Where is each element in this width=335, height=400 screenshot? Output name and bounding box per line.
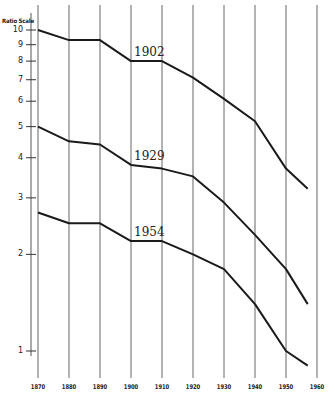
x-tick-label: 1870 bbox=[28, 383, 47, 391]
series-label-1954: 1954 bbox=[134, 225, 165, 239]
series-line-1954 bbox=[38, 213, 308, 366]
y-tick-label: 9 bbox=[3, 41, 23, 49]
series-line-1929 bbox=[38, 127, 308, 305]
y-tick-label: 5 bbox=[3, 123, 23, 131]
y-tick-label: 2 bbox=[3, 250, 23, 258]
x-tick-label: 1920 bbox=[183, 383, 202, 391]
y-tick-label: 7 bbox=[3, 76, 23, 84]
chart-canvas bbox=[0, 0, 335, 400]
x-tick-label: 1950 bbox=[276, 383, 295, 391]
y-tick-label: 8 bbox=[3, 57, 23, 65]
x-tick-label: 1880 bbox=[59, 383, 78, 391]
series-line-1902 bbox=[38, 30, 308, 189]
y-tick-label: 6 bbox=[3, 97, 23, 105]
x-tick-label: 1960 bbox=[307, 383, 326, 391]
series-label-1902: 1902 bbox=[134, 45, 165, 59]
y-axis-title: Ratio Scale bbox=[2, 17, 34, 24]
y-tick-label: 3 bbox=[3, 194, 23, 202]
x-tick-label: 1910 bbox=[152, 383, 171, 391]
x-tick-label: 1890 bbox=[90, 383, 109, 391]
x-tick-label: 1940 bbox=[245, 383, 264, 391]
x-tick-label: 1930 bbox=[214, 383, 233, 391]
y-tick-label: 1 bbox=[3, 347, 23, 355]
y-tick-label: 10 bbox=[3, 26, 23, 34]
series-label-1929: 1929 bbox=[134, 149, 165, 163]
y-tick-label: 4 bbox=[3, 154, 23, 162]
x-tick-label: 1900 bbox=[121, 383, 140, 391]
